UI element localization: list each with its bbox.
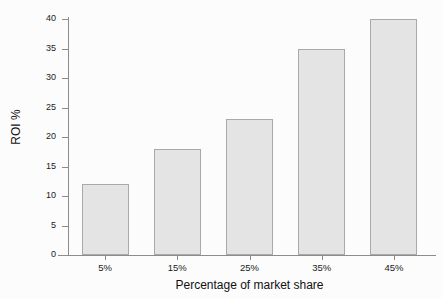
- bar: [226, 119, 273, 255]
- plot-area: [69, 19, 430, 255]
- x-tick-label: 5%: [75, 262, 135, 273]
- y-tick-mark: [62, 49, 69, 50]
- y-tick-mark: [62, 19, 69, 20]
- x-tick-mark: [394, 255, 395, 260]
- y-tick-mark: [62, 196, 69, 197]
- x-tick-mark: [322, 255, 323, 260]
- y-tick-label: 0: [12, 250, 56, 259]
- x-tick-mark: [105, 255, 106, 260]
- y-tick-mark: [62, 226, 69, 227]
- x-tick-label: 45%: [364, 262, 424, 273]
- bar: [154, 149, 201, 255]
- y-tick-label: 10: [12, 191, 56, 200]
- y-tick-mark: [62, 78, 69, 79]
- x-tick-label: 15%: [147, 262, 207, 273]
- x-axis-title: Percentage of market share: [69, 278, 430, 292]
- bar: [370, 19, 417, 255]
- y-tick-mark: [62, 108, 69, 109]
- y-tick-label: 40: [12, 14, 56, 23]
- y-tick-mark: [62, 167, 69, 168]
- x-axis-line: [58, 255, 436, 256]
- bar: [298, 49, 345, 256]
- bar-chart: 0510152025303540 5%15%25%35%45% Percenta…: [0, 0, 442, 298]
- x-tick-mark: [250, 255, 251, 260]
- y-axis-title: ROI %: [9, 72, 23, 182]
- x-tick-label: 25%: [220, 262, 280, 273]
- y-tick-label: 5: [12, 221, 56, 230]
- y-tick-label: 35: [12, 44, 56, 53]
- y-tick-mark: [62, 137, 69, 138]
- y-tick-mark: [62, 255, 69, 256]
- x-tick-label: 35%: [292, 262, 352, 273]
- bar: [82, 184, 129, 255]
- x-tick-mark: [177, 255, 178, 260]
